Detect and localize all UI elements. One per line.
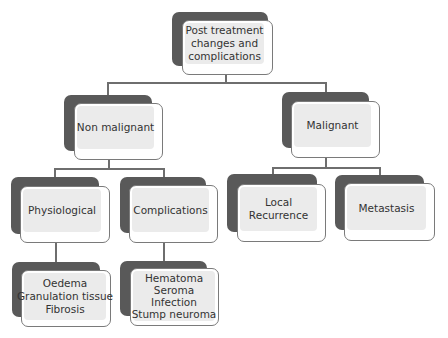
node-label: Hematoma xyxy=(145,272,203,284)
node-label: Post treatment xyxy=(186,24,264,37)
connector-to-non-malignant xyxy=(107,82,109,96)
node-box: Physiological xyxy=(20,186,110,243)
node-label: Stump neuroma xyxy=(132,308,217,320)
connector-physiological-down xyxy=(55,242,57,263)
node-label: Malignant xyxy=(307,119,359,132)
node-label: Oedema xyxy=(43,277,88,290)
node-label: Granulation tissue xyxy=(17,290,113,303)
node-label: Physiological xyxy=(28,204,96,217)
node-label: Seroma xyxy=(154,284,194,296)
node-label: Non malignant xyxy=(77,121,154,134)
node-label: Fibrosis xyxy=(45,303,84,316)
node-box: Oedema Granulation tissue Fibrosis xyxy=(21,270,111,327)
node-label: complications xyxy=(188,50,261,63)
node-label: Local xyxy=(265,196,292,209)
node-label: Recurrence xyxy=(249,209,308,222)
connector-level2-left-horizontal xyxy=(54,168,164,170)
connector-level1-horizontal xyxy=(107,82,326,84)
node-label: Complications xyxy=(133,204,207,217)
node-label: Metastasis xyxy=(359,202,415,215)
node-box: Metastasis xyxy=(344,183,435,241)
node-box: Hematoma Seroma Infection Stump neuroma xyxy=(130,268,219,326)
node-label: Infection xyxy=(151,296,197,308)
node-box: Local Recurrence xyxy=(237,184,326,242)
node-box: Malignant xyxy=(291,101,380,158)
node-label: changes and xyxy=(191,37,258,50)
connector-level2-right-horizontal xyxy=(272,167,380,169)
node-box: Non malignant xyxy=(74,103,163,160)
node-box: Complications xyxy=(129,185,218,243)
connector-complications-down xyxy=(163,242,165,262)
node-box: Post treatment changes and complications xyxy=(182,20,273,75)
